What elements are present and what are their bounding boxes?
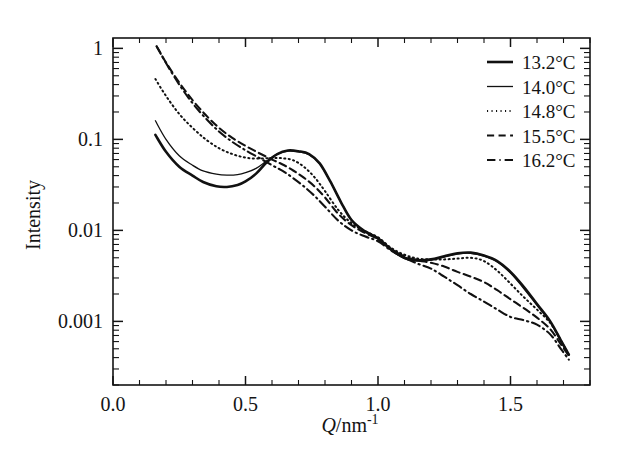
legend: 13.2°C14.0°C14.8°C15.5°C16.2°C	[487, 52, 576, 171]
x-axis-tick-labels: 0.00.51.01.5	[101, 393, 524, 415]
scattering-chart-figure: 0.00.51.01.5 10.10.010.001 13.2°C14.0°C1…	[0, 0, 622, 455]
svg-text:Q/nm-1: Q/nm-1	[321, 412, 378, 436]
legend-entry-label: 14.0°C	[522, 77, 576, 98]
series-line-155	[157, 46, 569, 355]
y-tick-label: 1	[93, 37, 103, 59]
y-tick-label: 0.001	[58, 310, 103, 332]
legend-entry-label: 16.2°C	[522, 150, 576, 171]
y-tick-label: 0.1	[78, 128, 103, 150]
series-line-132	[155, 135, 568, 355]
y-axis-title: Intensity	[22, 180, 45, 250]
legend-entry-label: 15.5°C	[522, 126, 576, 147]
y-tick-label: 0.01	[68, 219, 103, 241]
y-axis-ticks	[113, 48, 590, 385]
x-axis-title: Q/nm-1	[321, 412, 378, 436]
series-line-148	[155, 79, 568, 355]
x-tick-label: 0.5	[233, 393, 258, 415]
series-line-140	[155, 121, 568, 355]
x-axis-title-unit: /nm	[336, 414, 368, 436]
x-tick-label: 0.0	[101, 393, 126, 415]
y-axis-tick-labels: 10.10.010.001	[58, 37, 103, 332]
x-tick-label: 1.5	[498, 393, 523, 415]
chart-canvas: 0.00.51.01.5 10.10.010.001 13.2°C14.0°C1…	[0, 0, 622, 455]
legend-entry-label: 13.2°C	[522, 52, 576, 73]
x-axis-title-exponent: -1	[367, 412, 379, 427]
x-axis-title-symbol: Q	[321, 414, 336, 436]
series-line-162	[157, 46, 569, 359]
data-series-group	[155, 46, 568, 359]
legend-entry-label: 14.8°C	[522, 101, 576, 122]
